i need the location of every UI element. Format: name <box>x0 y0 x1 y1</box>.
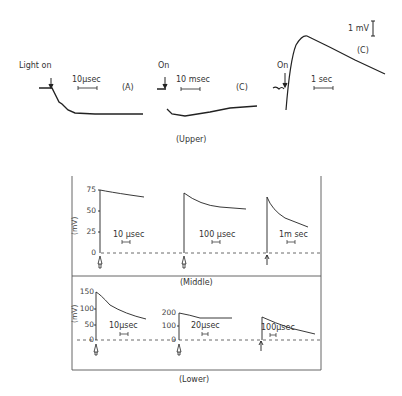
light-on-label: Light on <box>19 62 51 70</box>
on-label-c: On <box>277 62 288 70</box>
middle-ytick-50: 50 <box>80 207 96 215</box>
on-label-b: On <box>158 62 169 70</box>
lower-ytick-0: 0 <box>76 336 94 344</box>
middle-ytick-75: 75 <box>80 186 96 194</box>
middle-time-3: 1m sec <box>279 231 308 239</box>
upper-title: (Upper) <box>176 136 206 144</box>
lower-trace-2 <box>179 313 232 318</box>
trace-b <box>157 89 257 116</box>
middle-trace-2 <box>184 193 246 209</box>
lower2-ytick-0: 0 <box>158 336 176 344</box>
lower-time-2: 20µsec <box>191 322 220 330</box>
lower-ytick-150: 150 <box>76 288 94 296</box>
middle-ytick-0: 0 <box>80 249 96 257</box>
middle-ylabel: (mV) <box>71 217 79 235</box>
middle-trace-1 <box>100 190 144 197</box>
panel-label-a: (A) <box>122 84 134 92</box>
lower2-ytick-100: 100 <box>158 322 176 330</box>
middle-title: (Middle) <box>180 279 213 287</box>
lower-ytick-100: 100 <box>76 305 94 313</box>
middle-ytick-25: 25 <box>80 228 96 236</box>
lower-trace-1 <box>96 292 146 319</box>
lower-time-1: 10µsec <box>109 322 138 330</box>
lower-ytick-50: 50 <box>76 321 94 329</box>
time-scale-c: 1 sec <box>311 76 332 84</box>
middle-trace-3 <box>267 197 308 227</box>
middle-time-1: 10 µsec <box>113 231 144 239</box>
scale-bar-label: 1 mV <box>348 25 369 33</box>
figure-canvas <box>0 0 402 396</box>
time-scale-a: 10µsec <box>72 76 101 84</box>
time-scale-b: 10 msec <box>176 76 210 84</box>
lower-title: (Lower) <box>179 376 209 384</box>
panel-label-b: (C) <box>236 84 248 92</box>
middle-time-2: 100 µsec <box>199 231 235 239</box>
lower-time-3: 100µsec <box>261 324 295 332</box>
panel-label-c: (C) <box>357 47 369 55</box>
lower2-ytick-200: 200 <box>158 309 176 317</box>
